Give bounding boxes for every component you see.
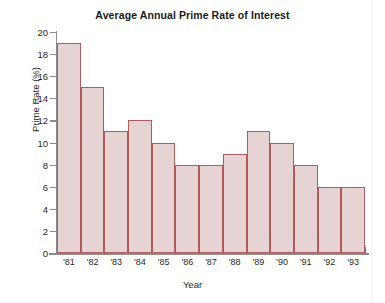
- y-axis-tick: [50, 32, 56, 33]
- bar-slot: [247, 32, 271, 253]
- x-axis-tick-label: '93: [347, 257, 359, 267]
- y-axis-tick: [50, 76, 56, 77]
- y-axis-tick-label: 14: [8, 93, 48, 104]
- y-axis-tick-label: 6: [8, 181, 48, 192]
- x-axis-line: [49, 253, 369, 255]
- bar-slot: [318, 32, 342, 253]
- y-axis-tick: [50, 98, 56, 99]
- y-axis-tick-label: 12: [8, 115, 48, 126]
- x-axis-tick-label: '86: [181, 257, 193, 267]
- y-axis-tick: [50, 253, 56, 254]
- bar-slot: [152, 32, 176, 253]
- x-axis-title: Year: [0, 279, 385, 290]
- bar[interactable]: [104, 131, 128, 253]
- bar-slot: [294, 32, 318, 253]
- bar-slot: [128, 32, 152, 253]
- y-axis-tick-label: 10: [8, 137, 48, 148]
- y-axis-tick: [50, 187, 56, 188]
- bar[interactable]: [199, 165, 223, 253]
- y-axis-tick: [50, 54, 56, 55]
- bar-slot: [57, 32, 81, 253]
- y-axis-tick-label: 4: [8, 203, 48, 214]
- bar-chart: Average Annual Prime Rate of Interest 02…: [0, 0, 385, 303]
- y-axis-title: Prime Rate (%): [30, 67, 41, 132]
- y-axis-tick-label: 0: [8, 248, 48, 259]
- y-axis-tick: [50, 120, 56, 121]
- x-axis-tick-label: '90: [276, 257, 288, 267]
- bar-slot: [270, 32, 294, 253]
- x-axis-tick-label: '88: [229, 257, 241, 267]
- x-axis-tick: [365, 247, 366, 254]
- x-axis-tick-label: '91: [300, 257, 312, 267]
- y-axis-tick-label: 2: [8, 225, 48, 236]
- y-axis-tick: [50, 143, 56, 144]
- bar[interactable]: [270, 143, 294, 254]
- y-axis-tick-label: 20: [8, 27, 48, 38]
- y-axis-tick-label: 18: [8, 49, 48, 60]
- bar[interactable]: [128, 120, 152, 253]
- y-axis-tick: [50, 209, 56, 210]
- x-axis-tick-label: '83: [110, 257, 122, 267]
- bar-series: [57, 32, 365, 253]
- bar[interactable]: [175, 165, 199, 253]
- x-axis-tick-label: '89: [253, 257, 265, 267]
- bar-slot: [81, 32, 105, 253]
- bar[interactable]: [318, 187, 342, 253]
- plot-area: Prime Rate (%): [57, 32, 365, 253]
- bar[interactable]: [81, 87, 105, 253]
- bar[interactable]: [341, 187, 365, 253]
- bar-slot: [175, 32, 199, 253]
- bar[interactable]: [294, 165, 318, 253]
- x-axis-tick-label: '85: [158, 257, 170, 267]
- bar-slot: [341, 32, 365, 253]
- bar[interactable]: [57, 43, 81, 253]
- x-axis-tick-label: '81: [63, 257, 75, 267]
- x-axis-tick-label: '92: [324, 257, 336, 267]
- bar-slot: [104, 32, 128, 253]
- bar[interactable]: [247, 131, 271, 253]
- x-axis-tick-label: '87: [205, 257, 217, 267]
- y-axis-tick-label: 16: [8, 71, 48, 82]
- x-axis-tick-label: '82: [87, 257, 99, 267]
- bar[interactable]: [152, 143, 176, 254]
- bar-slot: [199, 32, 223, 253]
- x-axis-tick-label: '84: [134, 257, 146, 267]
- bar[interactable]: [223, 154, 247, 253]
- chart-title: Average Annual Prime Rate of Interest: [0, 9, 385, 21]
- y-axis-tick-label: 8: [8, 159, 48, 170]
- page-edge-line: [371, 0, 372, 303]
- y-axis-tick: [50, 231, 56, 232]
- bar-slot: [223, 32, 247, 253]
- y-axis-tick: [50, 165, 56, 166]
